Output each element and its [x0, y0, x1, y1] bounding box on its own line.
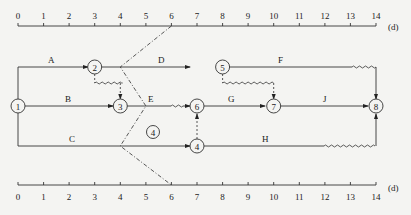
dummy-5-7-wave [223, 82, 274, 84]
top-tick-label: 10 [269, 11, 279, 21]
activity-e-free-float [171, 105, 183, 107]
svg-text:3: 3 [118, 102, 123, 112]
activity-f-free-float [352, 66, 376, 68]
activity-g-label: G [228, 94, 235, 104]
dummy-2-3-wave [95, 82, 123, 84]
activity-c-label: C [69, 134, 75, 144]
node-6: 6 [190, 99, 204, 113]
top-tick-label: 9 [246, 11, 251, 21]
activity-h-label: H [262, 134, 269, 144]
bottom-tick-label: 1 [41, 192, 46, 202]
node-7: 7 [267, 99, 281, 113]
svg-text:5: 5 [220, 63, 225, 73]
top-tick-label: 1 [41, 11, 46, 21]
time-scaled-network-diagram: 0 1 2 3 4 5 6 7 8 9 10 11 12 13 14 (d) 0… [0, 0, 411, 215]
top-tick-label: 4 [118, 11, 123, 21]
node-4: 4 [190, 139, 204, 153]
bottom-tick-label: 12 [320, 192, 329, 202]
bottom-tick-label: 8 [220, 192, 225, 202]
activity-e-label: E [148, 94, 154, 104]
bottom-timescale: 0 1 2 3 4 5 6 7 8 9 10 11 12 13 14 (d) [16, 182, 399, 202]
svg-text:4: 4 [151, 128, 156, 138]
bottom-tick-label: 11 [295, 192, 304, 202]
node-3: 3 [113, 99, 127, 113]
bottom-tick-label: 6 [169, 192, 174, 202]
svg-text:8: 8 [374, 102, 379, 112]
bottom-tick-label: 2 [67, 192, 72, 202]
activity-a-arrow [18, 67, 88, 100]
node-1: 1 [11, 99, 25, 113]
activity-j-label: J [323, 94, 327, 104]
top-tick-label: 14 [372, 11, 382, 21]
bottom-tick-label: 0 [16, 192, 21, 202]
top-tick-label: 12 [320, 11, 329, 21]
top-unit-label: (d) [388, 22, 399, 32]
node-2: 2 [88, 60, 102, 74]
svg-text:7: 7 [271, 102, 276, 112]
top-timescale: 0 1 2 3 4 5 6 7 8 9 10 11 12 13 14 (d) [16, 11, 399, 32]
nodes: 1 2 3 4 5 6 7 8 4 [11, 60, 383, 153]
svg-text:4: 4 [195, 142, 200, 152]
bottom-tick-label: 14 [372, 192, 382, 202]
check-line [120, 26, 171, 185]
bottom-tick-label: 7 [195, 192, 200, 202]
check-line-marker: 4 [147, 126, 160, 139]
bottom-tick-label: 4 [118, 192, 123, 202]
top-tick-label: 8 [220, 11, 225, 21]
top-tick-label: 6 [169, 11, 174, 21]
node-5: 5 [216, 60, 230, 74]
bottom-tick-label: 3 [92, 192, 97, 202]
svg-text:1: 1 [16, 102, 21, 112]
activity-f-label: F [278, 55, 283, 65]
bottom-tick-label: 13 [346, 192, 356, 202]
activity-h-free-float [324, 145, 375, 147]
svg-text:2: 2 [92, 63, 97, 73]
top-tick-label: 2 [67, 11, 72, 21]
activity-a-label: A [48, 55, 55, 65]
svg-text:6: 6 [195, 102, 200, 112]
activity-c-arrow [18, 113, 190, 146]
bottom-unit-label: (d) [388, 183, 399, 193]
activity-b-label: B [65, 94, 71, 104]
node-8: 8 [369, 99, 383, 113]
bottom-tick-label: 5 [144, 192, 149, 202]
bottom-tick-label: 10 [269, 192, 279, 202]
top-tick-label: 11 [295, 11, 304, 21]
top-tick-label: 7 [195, 11, 200, 21]
top-tick-label: 0 [16, 11, 21, 21]
activity-d-label: D [158, 55, 165, 65]
top-tick-label: 5 [144, 11, 149, 21]
bottom-tick-label: 9 [246, 192, 251, 202]
top-tick-label: 3 [92, 11, 97, 21]
top-tick-label: 13 [346, 11, 356, 21]
